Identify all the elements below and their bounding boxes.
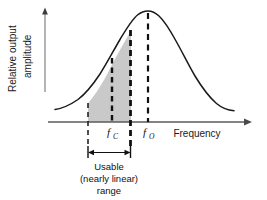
tick-label-fc-base: f [107,126,112,138]
caption-line-2: (nearly linear) [80,173,138,184]
tick-label-fo-base: f [143,126,148,138]
tick-label-fc: f C [107,126,119,141]
usable-range-shaded-region [88,31,131,123]
x-axis-label: Frequency [173,128,220,139]
tick-label-fc-sub: C [113,132,119,141]
arrow-up-icon [42,8,48,93]
tick-label-fo: f O [143,126,155,141]
response-curve [55,11,234,111]
figure-container: Relative output amplitude Frequency f C … [0,0,267,200]
x-axis [48,119,252,126]
y-axis-label-line1: Relative output [7,25,18,92]
double-headed-arrow-icon [88,146,131,158]
caption-line-3: range [97,185,121,196]
caption-line-1: Usable [94,161,124,172]
y-axis-label-line2: amplitude [22,34,33,78]
tick-label-fo-sub: O [149,132,155,141]
frequency-response-chart: Relative output amplitude Frequency f C … [0,0,267,200]
